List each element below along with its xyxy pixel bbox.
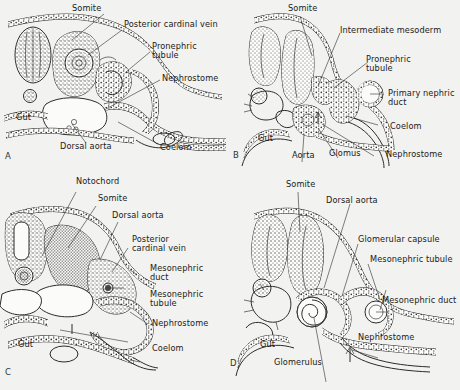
label-mesonephric-duct-line2: duct [150, 273, 169, 282]
label-glomus: Glomus [329, 149, 361, 158]
label-nephrostome: Nephrostome [152, 319, 208, 328]
label-somite: Somite [286, 180, 315, 189]
label-gut: Gut [18, 340, 33, 349]
label-gut: Gut [258, 134, 273, 143]
label-posterior-cardinal-vein-line2: cardinal vein [132, 244, 186, 253]
label-pronephric-tubule-line2: tubule [152, 51, 179, 60]
panel-b: Somite Intermediate mesoderm Pronephric … [230, 0, 460, 172]
label-glomerulus: Glomerulus [274, 358, 322, 367]
label-coelom: Coelom [390, 122, 422, 131]
label-dorsal-aorta: Dorsal aorta [60, 142, 112, 151]
label-somite: Somite [288, 4, 317, 13]
label-gut: Gut [260, 340, 275, 349]
panel-d: Somite Dorsal aorta Glomerular capsule M… [230, 172, 460, 390]
label-dorsal-aorta: Dorsal aorta [326, 196, 378, 205]
label-glomerular-capsule: Glomerular capsule [358, 235, 440, 244]
panel-letter-b: B [233, 150, 239, 160]
panel-c: Notochord Somite Dorsal aorta Posterior … [0, 172, 230, 390]
panel-c-drawing [0, 172, 230, 390]
label-posterior-cardinal-vein: Posterior cardinal vein [124, 20, 218, 29]
label-mesonephric-tubule-line2: tubule [150, 299, 177, 308]
label-nephrostome: Nephrostome [162, 74, 218, 83]
label-mesonephric-duct: Mesonephric duct [382, 296, 456, 305]
label-dorsal-aorta: Dorsal aorta [112, 211, 164, 220]
label-mesonephric-tubule: Mesonephric tubule [370, 255, 453, 264]
label-notochord: Notochord [76, 177, 119, 186]
label-nephrostome: Nephrostome [386, 150, 442, 159]
label-intermediate-mesoderm: Intermediate mesoderm [340, 26, 441, 35]
label-primary-nephric-duct-line2: duct [388, 98, 407, 107]
panel-letter-c: C [5, 367, 11, 377]
label-somite: Somite [72, 4, 101, 13]
panel-letter-d: D [230, 358, 237, 368]
label-nephrostome: Nephrostome [358, 333, 414, 342]
label-aorta: Aorta [292, 151, 315, 160]
label-coelom: Coelom [160, 143, 192, 152]
label-pronephric-tubule-line2: tubule [366, 64, 393, 73]
label-somite: Somite [98, 194, 127, 203]
panel-a: Somite Posterior cardinal vein Pronephri… [0, 0, 230, 172]
label-coelom: Coelom [152, 344, 184, 353]
figure-container: Somite Posterior cardinal vein Pronephri… [0, 0, 460, 390]
label-gut: Gut [16, 113, 31, 122]
panel-letter-a: A [5, 151, 11, 161]
